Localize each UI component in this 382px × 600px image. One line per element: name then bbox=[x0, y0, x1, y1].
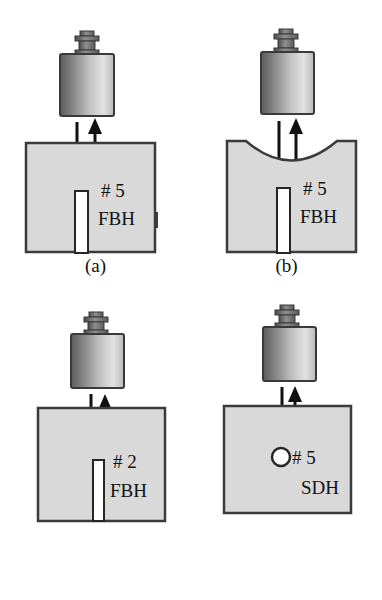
ultrasonic-configuration-figure: # 5 FBH (a) bbox=[0, 0, 382, 600]
panel-d: # 5 SDH (d) bbox=[191, 300, 382, 600]
defect-type-label: FBH bbox=[98, 208, 135, 229]
transducer-connector bbox=[84, 312, 108, 334]
edge-tick bbox=[155, 212, 158, 228]
defect-number-label: # 5 bbox=[101, 180, 125, 201]
panel-c: # 2 FBH (c) bbox=[0, 300, 191, 600]
flat-bottom-hole-slot bbox=[93, 460, 104, 521]
flat-bottom-hole-slot bbox=[75, 191, 88, 253]
panel-b: # 5 FBH (b) bbox=[191, 0, 382, 300]
panel-a: # 5 FBH (a) bbox=[0, 0, 191, 300]
test-block bbox=[26, 143, 155, 252]
defect-number-label: # 2 bbox=[113, 451, 137, 472]
transducer-body bbox=[263, 327, 316, 381]
panel-b-caption: (b) bbox=[191, 255, 382, 277]
defect-type-label: FBH bbox=[110, 480, 147, 501]
test-block-concave bbox=[227, 141, 356, 252]
defect-type-label: FBH bbox=[300, 206, 337, 227]
panel-d-drawing: # 5 SDH bbox=[191, 300, 382, 600]
defect-number-label: # 5 bbox=[303, 178, 327, 199]
side-drilled-hole bbox=[272, 448, 290, 466]
defect-number-label: # 5 bbox=[292, 447, 316, 468]
transducer-connector bbox=[274, 29, 298, 52]
transducer-body bbox=[71, 334, 124, 388]
defect-type-label: SDH bbox=[301, 477, 339, 498]
flat-bottom-hole-slot bbox=[277, 188, 290, 253]
panel-c-drawing: # 2 FBH bbox=[0, 300, 191, 600]
transducer-connector bbox=[75, 31, 99, 54]
transducer-connector bbox=[275, 305, 299, 327]
panel-a-caption: (a) bbox=[0, 255, 191, 277]
transducer-body bbox=[261, 52, 314, 114]
transducer-body bbox=[60, 54, 114, 116]
